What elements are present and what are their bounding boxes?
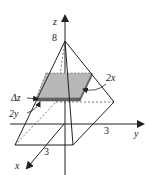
two-y-label: 2y	[9, 108, 19, 119]
two-x-label: 2x	[106, 72, 116, 83]
cross-section-slab	[36, 73, 92, 101]
x-tick-label: 3	[44, 146, 49, 157]
x-axis-label: x	[14, 160, 20, 171]
pyramid-diagram: z 8 y 3 x 3 Δz 2y 2x	[0, 0, 149, 175]
y-tick-label: 3	[104, 125, 109, 136]
z-axis-label: z	[52, 16, 57, 27]
y-axis-label: y	[133, 128, 139, 139]
delta-z-label: Δz	[10, 92, 21, 103]
z-tick-label: 8	[52, 32, 57, 43]
